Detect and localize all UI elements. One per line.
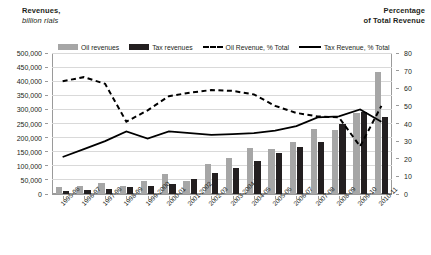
right-axis-tick-label: 0	[404, 191, 408, 198]
right-axis-tick-label: 30	[404, 138, 412, 145]
left-axis-tick-label: 450,000	[17, 64, 42, 71]
left-axis-tick-label: 100,000	[17, 162, 42, 169]
left-axis-ticks: 050,000100,000150,000200,000250,000300,0…	[0, 53, 48, 194]
left-axis-tickmark	[45, 179, 48, 180]
right-axis-title: Percentage of Total Revenue	[364, 6, 425, 25]
left-axis-tick-label: 0	[38, 191, 42, 198]
legend-item[interactable]: Tax Revenue, % Total	[299, 44, 390, 51]
right-axis-tick-label: 50	[404, 102, 412, 109]
revenue-chart: Revenues, billion rials Percentage of To…	[0, 0, 431, 255]
right-axis-tickmark	[396, 88, 399, 89]
right-axis-title-line2: of Total Revenue	[364, 16, 425, 26]
line-tax-pct	[63, 109, 382, 157]
legend-label: Oil Revenue, % Total	[226, 44, 289, 51]
right-axis-tick-label: 20	[404, 155, 412, 162]
plot-area	[52, 53, 392, 194]
right-axis-tickmark	[396, 141, 399, 142]
left-axis-tickmark	[45, 137, 48, 138]
right-axis-tick-label: 60	[404, 85, 412, 92]
chart-legend: Oil revenuesTax revenuesOil Revenue, % T…	[56, 41, 386, 53]
left-axis-tickmark	[45, 151, 48, 152]
left-axis-tickmark	[45, 165, 48, 166]
legend-item[interactable]: Oil Revenue, % Total	[203, 44, 289, 51]
right-axis-ticks: 01020304050607080	[396, 53, 430, 194]
right-axis-title-line1: Percentage	[364, 6, 425, 16]
right-axis-tick-label: 70	[404, 67, 412, 74]
right-axis-tickmark	[396, 158, 399, 159]
left-axis-tickmark	[45, 53, 48, 54]
right-axis-tick-label: 10	[404, 173, 412, 180]
left-axis-title: Revenues, billion rials	[22, 6, 60, 25]
left-axis-tick-label: 150,000	[17, 148, 42, 155]
right-axis-tick-label: 40	[404, 120, 412, 127]
legend-label: Oil revenues	[81, 44, 119, 51]
right-axis-tickmark	[396, 53, 399, 54]
left-axis-tickmark	[45, 81, 48, 82]
left-axis-tick-label: 250,000	[17, 120, 42, 127]
left-axis-tick-label: 50,000	[21, 176, 42, 183]
left-axis-tick-label: 400,000	[17, 78, 42, 85]
legend-swatch-icon	[299, 46, 321, 48]
left-axis-tick-label: 200,000	[17, 134, 42, 141]
line-series-layer	[52, 53, 392, 194]
x-axis-labels: 1995-961996-971997-981998-991999-2000200…	[52, 196, 392, 254]
left-axis-tick-label: 500,000	[17, 50, 42, 57]
right-axis-tickmark	[396, 176, 399, 177]
right-axis-tick-label: 80	[404, 50, 412, 57]
legend-label: Tax revenues	[152, 44, 192, 51]
left-axis-tickmark	[45, 194, 48, 195]
right-axis-tickmark	[396, 194, 399, 195]
legend-item[interactable]: Oil revenues	[58, 44, 119, 51]
left-axis-title-line1: Revenues,	[22, 6, 60, 16]
right-axis-tickmark	[396, 70, 399, 71]
left-axis-tickmark	[45, 109, 48, 110]
left-axis-tick-label: 300,000	[17, 106, 42, 113]
legend-swatch-icon	[203, 46, 223, 48]
left-axis-tick-label: 350,000	[17, 92, 42, 99]
legend-label: Tax Revenue, % Total	[324, 44, 390, 51]
line-oil-pct	[63, 77, 382, 146]
legend-swatch-icon	[58, 44, 78, 50]
left-axis-tickmark	[45, 123, 48, 124]
left-axis-tickmark	[45, 95, 48, 96]
right-axis-tickmark	[396, 123, 399, 124]
right-axis-tickmark	[396, 105, 399, 106]
legend-swatch-icon	[129, 44, 149, 50]
legend-item[interactable]: Tax revenues	[129, 44, 192, 51]
left-axis-tickmark	[45, 67, 48, 68]
left-axis-title-line2: billion rials	[22, 16, 60, 26]
